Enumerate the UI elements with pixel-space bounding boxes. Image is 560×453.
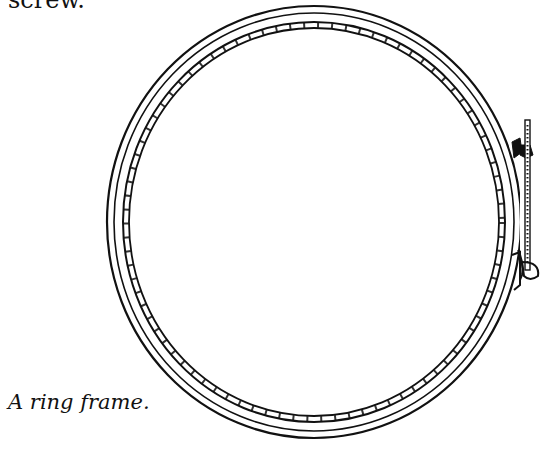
figure-caption: A ring frame. <box>8 390 150 414</box>
outer-hoop <box>107 6 521 438</box>
ring-frame-illustration <box>0 0 560 453</box>
